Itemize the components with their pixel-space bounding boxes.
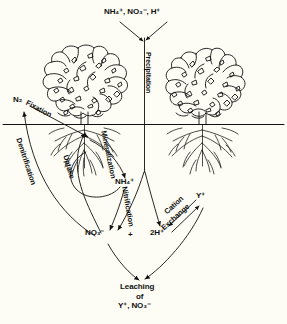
precipitation-arrow xyxy=(120,22,167,172)
precipitation-label: Precipitation xyxy=(145,52,152,93)
atmospheric-inputs-label: NH₄⁺, NO₃⁻, H⁺ xyxy=(104,8,160,16)
diagram-canvas xyxy=(0,0,287,324)
left-tree xyxy=(43,45,127,125)
nitrogen-cycle-diagram: NH₄⁺, NO₃⁻, H⁺ Precipitation N₂ Fixation… xyxy=(0,0,287,324)
ammonium-label: NH₄⁺ xyxy=(115,178,134,186)
plus-sign-label: + xyxy=(128,231,133,239)
leaching-arrows xyxy=(108,208,203,280)
nitrate-label: NO₃⁻ xyxy=(85,229,104,237)
leachate-label: Y⁺, NO₃⁻ xyxy=(118,302,151,310)
right-tree xyxy=(166,48,245,124)
exchangeable-cation-label: Y⁺ xyxy=(196,192,205,200)
right-root-system xyxy=(167,125,238,175)
n2-label: N₂ xyxy=(13,96,22,104)
leaching-label: Leaching xyxy=(120,283,154,291)
two-protons-label: 2H⁺ xyxy=(150,229,164,237)
